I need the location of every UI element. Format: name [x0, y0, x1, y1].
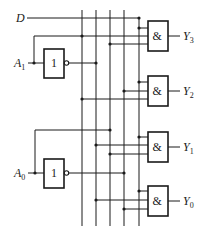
node-a0-not-bus [122, 171, 125, 174]
node-y2-a0-not [122, 89, 125, 92]
and-gate-y1-symbol: & [153, 140, 163, 154]
and-gate-y3: & Y3 [82, 21, 194, 51]
node-y3-d [137, 26, 140, 29]
output-y2-label: Y2 [183, 84, 194, 100]
and-gate-y1: & Y1 [94, 132, 193, 162]
output-y0-label: Y0 [183, 194, 194, 210]
input-a0: A0 1 [13, 128, 126, 188]
and-gate-y0: & Y0 [94, 186, 193, 216]
bus-lines [82, 10, 139, 226]
and-gate-y3-symbol: & [153, 29, 163, 43]
inverter-a1-bubble [64, 61, 68, 65]
inverter-a0-bubble [64, 171, 68, 175]
node-y3-a0 [108, 42, 111, 45]
node-y0-a0-not [122, 207, 125, 210]
output-y3-label: Y3 [183, 29, 194, 45]
node-y2-d [137, 80, 140, 83]
decoder-circuit-diagram: D A1 1 A0 1 & Y3 [0, 0, 213, 229]
input-a1: A1 1 [13, 34, 98, 78]
and-gate-y2: & Y2 [80, 76, 193, 106]
node-y2-a1 [80, 97, 83, 100]
node-y1-d [137, 135, 140, 138]
node-y0-d [137, 189, 140, 192]
inverter-a0-symbol: 1 [51, 166, 57, 180]
node-d [137, 16, 140, 19]
input-a1-label: A1 [13, 56, 25, 72]
node-a0-bus [108, 128, 111, 131]
node-y0-a1-not [94, 198, 97, 201]
output-y1-label: Y1 [183, 140, 194, 156]
and-gate-y2-symbol: & [153, 84, 163, 98]
node-y1-a0 [108, 152, 111, 155]
node-a1-not-bus [94, 61, 97, 64]
input-d-label: D [15, 11, 25, 25]
node-y1-a1-not [94, 143, 97, 146]
and-gate-y0-symbol: & [153, 194, 163, 208]
input-a0-label: A0 [13, 166, 25, 182]
inverter-a1-symbol: 1 [51, 56, 57, 70]
input-d: D [15, 11, 141, 25]
